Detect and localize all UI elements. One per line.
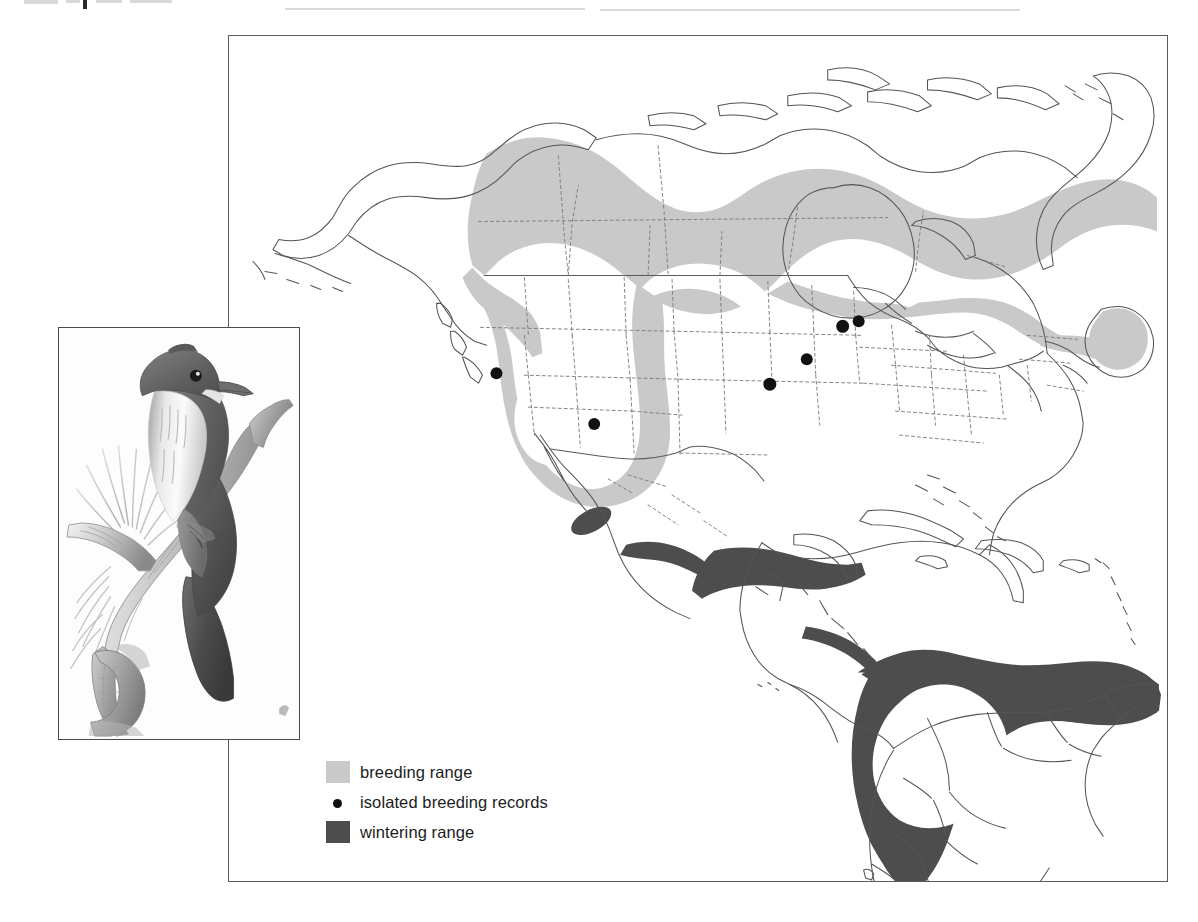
coastline-greenland-fjords — [1065, 84, 1123, 120]
wintering-patch-costa-rica-panama — [802, 627, 880, 673]
legend-swatch-breeding-range — [326, 761, 350, 783]
border-state-v29 — [999, 375, 1003, 415]
breeding-range-great-lakes-new-england — [768, 281, 1089, 352]
border-state-h9 — [892, 365, 996, 373]
border-state-v24 — [896, 365, 900, 411]
record-dot-new-england — [853, 315, 865, 327]
border-state-h13 — [1019, 359, 1071, 363]
map-legend: breeding range isolated breeding records… — [326, 757, 626, 847]
legend-item-breeding-range: breeding range — [326, 757, 626, 787]
coastline-lesser-antilles — [1095, 559, 1135, 645]
record-dot-west-virginia — [801, 353, 813, 365]
border-state-v26 — [932, 375, 936, 425]
border-us-canada-east — [1007, 365, 1041, 411]
border-state-v7 — [624, 277, 626, 335]
border-state-v23 — [892, 325, 896, 365]
coastline-florida — [979, 545, 1023, 603]
border-state-v8 — [626, 335, 630, 379]
border-state-h5 — [864, 383, 988, 391]
cropped-title-remnant — [0, 0, 1198, 12]
border-state-v12 — [678, 379, 680, 455]
coastline-alaska-panhandle — [349, 236, 487, 346]
border-state-v28 — [967, 395, 971, 435]
border-state-v19 — [814, 329, 816, 375]
coastline-arctic-islands-2 — [828, 68, 1060, 110]
coastline-aleutians — [253, 253, 351, 291]
bird-illustration-inset — [58, 327, 300, 740]
legend-label-breeding-range: breeding range — [360, 763, 472, 782]
coastline-bc-islands — [437, 303, 483, 383]
legend-label-isolated-breeding-records: isolated breeding records — [360, 793, 548, 812]
border-state-v22 — [856, 335, 860, 383]
border-state-h11 — [900, 435, 984, 443]
range-map-svg — [229, 36, 1167, 881]
breeding-range-newfoundland — [1089, 308, 1148, 369]
legend-item-isolated-breeding-records: isolated breeding records — [326, 787, 626, 817]
bird-eye — [190, 370, 202, 382]
wintering-patch-sierra-madre-occidental — [567, 501, 616, 541]
record-dot-northern-alabama — [763, 378, 776, 391]
coastline-hispaniola — [975, 539, 1043, 572]
border-state-h12 — [680, 453, 768, 455]
record-dot-southern-ontario-new-york — [836, 320, 849, 333]
border-state-h10 — [896, 411, 1008, 419]
map-frame — [228, 35, 1168, 882]
border-state-v14 — [722, 331, 724, 379]
legend-label-wintering-range: wintering range — [360, 823, 474, 842]
border-state-v15 — [724, 379, 726, 433]
coastline-puerto-rico — [1059, 560, 1089, 573]
border-state-v3 — [568, 279, 572, 335]
border-state-h15 — [1047, 385, 1083, 391]
border-state-v27 — [963, 355, 967, 395]
record-dot-west-texas — [588, 418, 600, 430]
breeding-range-boreal-belt — [468, 137, 1157, 314]
range-map-figure: breeding range isolated breeding records… — [0, 0, 1198, 922]
border-state-v9 — [630, 379, 634, 453]
bird-eye-highlight — [196, 372, 200, 376]
coastline-arctic-islands-1 — [648, 90, 931, 130]
bird-illustration-svg — [59, 328, 299, 739]
wintering-patch-trans-mexican-belt — [620, 542, 710, 575]
legend-item-wintering-range: wintering range — [326, 817, 626, 847]
ocean-specks — [758, 682, 779, 690]
coastline-jamaica — [916, 556, 948, 569]
wintering-range-layer — [567, 501, 1161, 881]
legend-swatch-wintering-range — [326, 821, 350, 843]
border-state-v11 — [674, 331, 678, 379]
coastline-us-east — [989, 353, 1083, 555]
record-dot-southern-nevada — [490, 367, 502, 379]
legend-dot-isolated-breeding-records — [326, 791, 350, 813]
wintering-patch-southern-mexico — [692, 547, 866, 598]
coastline-bahamas — [916, 475, 1006, 541]
